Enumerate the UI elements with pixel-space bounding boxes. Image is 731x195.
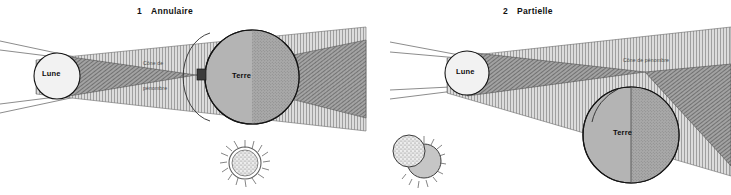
panel-1-number: 1 bbox=[137, 6, 142, 16]
panel-2-eclipse-symbol bbox=[393, 135, 446, 188]
panel-1-cone-label-line2: pénombre bbox=[143, 85, 167, 91]
panel-1-cone-label-line1: Cône de bbox=[143, 60, 163, 66]
panel-1-title-text: Annulaire bbox=[151, 6, 193, 16]
panel-1-title: 1Annulaire bbox=[137, 6, 193, 16]
panel-2-title: 2Partielle bbox=[503, 6, 553, 16]
panel-2-earth-label: Terre bbox=[613, 128, 632, 137]
panel-1-sun-symbol bbox=[220, 140, 270, 187]
panel-1-earth-label: Terre bbox=[232, 71, 251, 80]
panel-2-title-text: Partielle bbox=[517, 6, 553, 16]
panel-2-moon-label: Lune bbox=[456, 67, 475, 76]
eclipse-diagram-figure bbox=[0, 0, 731, 195]
panel-1-moon-label: Lune bbox=[42, 69, 61, 78]
panel-2-number: 2 bbox=[503, 6, 508, 16]
panel-1-annulaire bbox=[0, 27, 366, 187]
panel-2-moon-disc-icon bbox=[393, 135, 425, 167]
panel-1-umbra-contact-marker bbox=[197, 69, 206, 80]
panel-2-cone-label: Cône de pénombre bbox=[623, 57, 669, 63]
panel-2-partielle bbox=[390, 27, 731, 188]
